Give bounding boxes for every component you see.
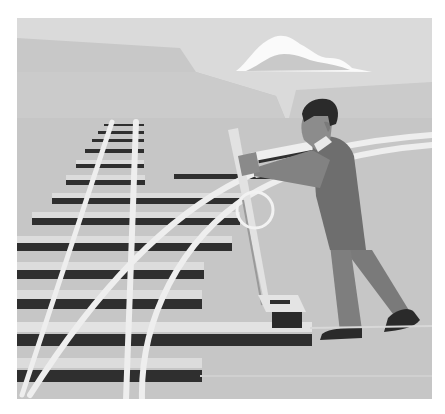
railroad-switch-illustration [0,0,445,414]
hand [238,152,260,176]
